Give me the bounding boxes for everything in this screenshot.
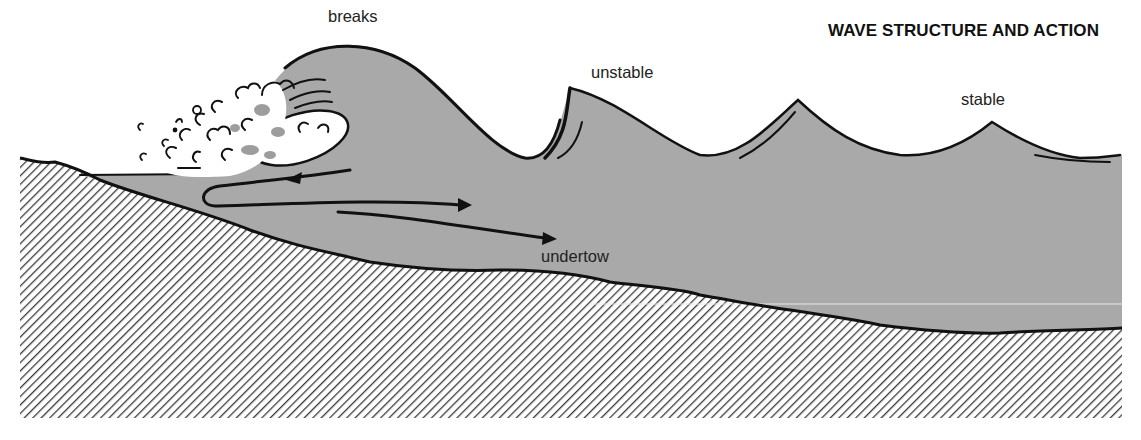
label-stable: stable: [961, 90, 1005, 109]
label-breaks: breaks: [328, 7, 378, 26]
wave-diagram: [0, 0, 1141, 440]
label-undertow: undertow: [541, 247, 609, 266]
diagram-title: WAVE STRUCTURE AND ACTION: [828, 21, 1099, 41]
label-unstable: unstable: [591, 63, 653, 82]
